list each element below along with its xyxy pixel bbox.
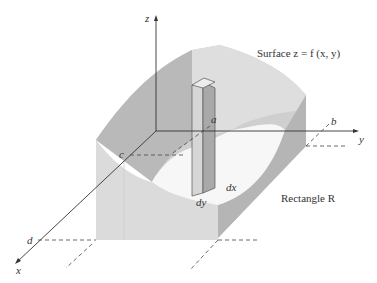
bound-d-label: d: [27, 235, 33, 246]
y-axis-label: y: [359, 134, 364, 145]
bound-c-label: c: [119, 149, 124, 160]
diagram-graphics: [0, 0, 377, 283]
x-axis-label: x: [16, 265, 21, 276]
z-axis-arrow: [154, 15, 158, 21]
dx-label: dx: [226, 182, 236, 193]
bound-b-label: b: [331, 116, 337, 127]
rectangle-label: Rectangle R: [281, 193, 335, 204]
surface-label: Surface z = f (x, y): [257, 48, 340, 59]
z-axis-label: z: [145, 13, 149, 24]
column-front: [192, 82, 203, 196]
double-integral-diagram: z y x a b c d dx dy Surface z = f (x, y)…: [0, 0, 377, 283]
bound-a-label: a: [211, 114, 217, 125]
column-side: [203, 82, 215, 193]
dy-label: dy: [196, 197, 206, 208]
